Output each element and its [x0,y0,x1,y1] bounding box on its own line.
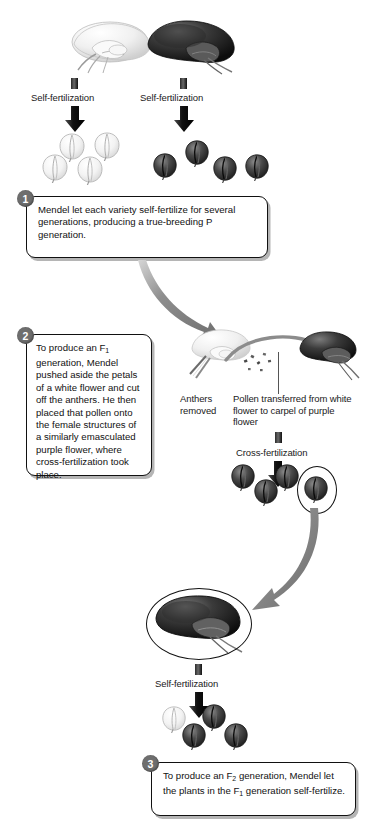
label-anthers-removed: Anthers removed [180,393,226,416]
blossom-f2-purple-3 [222,722,250,750]
blossom-purple-p-4 [243,153,271,181]
callout-step-1-text: Mendel let each variety self-fertilize f… [38,204,258,241]
connector-square-purple [180,78,187,89]
blossom-purple-p-2 [183,139,211,167]
blossom-f2-purple-2 [180,722,208,750]
callout-step-2-text: To produce an F1 generation, Mendel push… [36,342,144,481]
selection-circle-enlarged-f1 [146,588,252,660]
blossom-purple-p-3 [211,155,239,183]
label-self-fertilization-f1: Self-fertilization [155,678,218,690]
down-arrow-purple-p [173,106,195,132]
label-pollen-transferred: Pollen transferred from white flower to … [233,393,358,428]
callout-step-2: To produce an F1 generation, Mendel push… [26,334,152,476]
blossom-f1-3 [252,478,280,506]
step-badge-3: 3 [142,755,159,772]
step-badge-2: 2 [17,327,34,344]
step-badge-1: 1 [17,190,34,207]
label-self-fertilization-white: Self-fertilization [31,92,94,104]
leader-line-pollen [278,352,279,394]
parent-flower-purple [140,18,245,76]
recipient-purple-flower [296,328,362,382]
blossom-white-p-4 [75,155,105,185]
label-self-fertilization-purple: Self-fertilization [140,92,203,104]
blossom-white-p-3 [40,153,70,183]
callout-step-3: To produce an F2 generation, Mendel let … [151,762,356,816]
down-arrow-white-p [64,106,86,132]
connector-square-cross [275,432,282,443]
blossom-purple-p-1 [151,152,179,180]
callout-step-1: Mendel let each variety self-fertilize f… [26,196,268,258]
label-cross-fertilization: Cross-fertilization [236,447,307,459]
figure-canvas: Self-fertilization Self-fertilization [0,0,367,828]
connector-square-white [71,78,78,89]
callout-step-3-text: To produce an F2 generation, Mendel let … [163,770,346,800]
connector-square-f1 [195,664,202,675]
